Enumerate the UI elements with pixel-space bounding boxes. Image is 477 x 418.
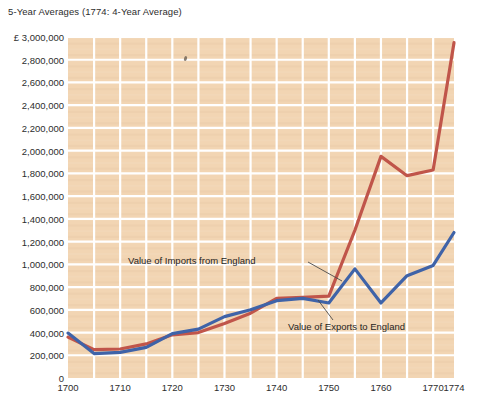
- y-axis-tick-label: 1,200,000: [22, 236, 64, 247]
- y-axis-tick-label: £ 3,000,000: [14, 32, 64, 43]
- y-axis-tick-label: 2,400,000: [22, 100, 64, 111]
- y-axis-tick-label: 1,800,000: [22, 168, 64, 179]
- x-axis-tick-label: 1760: [370, 382, 391, 393]
- x-axis-tick-label: 1774: [443, 382, 464, 393]
- y-axis-tick-label: 2,600,000: [22, 77, 64, 88]
- x-axis-tick-label: 1740: [266, 382, 287, 393]
- y-axis-tick-label: 2,000,000: [22, 145, 64, 156]
- chart-container: 5-Year Averages (1774: 4-Year Average) £…: [0, 0, 477, 418]
- y-axis-tick-label: 800,000: [30, 282, 64, 293]
- y-axis-tick-label: 2,800,000: [22, 54, 64, 65]
- x-axis-tick-label: 1720: [162, 382, 183, 393]
- y-axis-tick-label: 1,000,000: [22, 259, 64, 270]
- x-axis-tick-label: 1770: [423, 382, 444, 393]
- x-axis-tick-label: 1730: [214, 382, 235, 393]
- x-axis-ticks: 170017101720173017401750176017701774: [0, 382, 477, 404]
- chart-plot-area: [0, 0, 477, 418]
- x-axis-tick-label: 1700: [57, 382, 78, 393]
- y-axis-tick-label: 400,000: [30, 327, 64, 338]
- x-axis-tick-label: 1750: [318, 382, 339, 393]
- y-axis-tick-label: 600,000: [30, 304, 64, 315]
- annotation-label-imports: Value of Imports from England: [128, 255, 256, 266]
- y-axis-tick-label: 2,200,000: [22, 122, 64, 133]
- annotation-label-exports: Value of Exports to England: [288, 321, 405, 332]
- x-axis-tick-label: 1710: [110, 382, 131, 393]
- y-axis-tick-label: 1,400,000: [22, 213, 64, 224]
- y-axis-ticks: £ 3,000,0002,800,0002,600,0002,400,0002,…: [0, 0, 64, 418]
- y-axis-tick-label: 1,600,000: [22, 191, 64, 202]
- y-axis-tick-label: 200,000: [30, 350, 64, 361]
